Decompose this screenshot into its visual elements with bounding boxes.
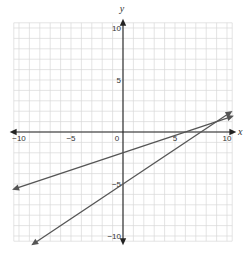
x-tick-label: 0	[115, 134, 120, 143]
y-tick-label: −10	[107, 232, 121, 241]
axes	[10, 19, 237, 246]
x-axis-label: x	[237, 126, 243, 137]
x-tick-label: −10	[12, 134, 26, 143]
coordinate-plane-chart: −10−50510105−5−10 x y	[0, 0, 246, 255]
x-tick-label: −5	[66, 134, 76, 143]
y-tick-label: 5	[117, 76, 122, 85]
line-2	[31, 111, 232, 245]
y-tick-label: 10	[112, 24, 121, 33]
x-tick-label: 10	[223, 134, 232, 143]
y-axis-label: y	[119, 3, 125, 14]
line-arrow-start-icon	[31, 239, 39, 246]
line-segment	[35, 113, 229, 243]
line-arrow-start-icon	[12, 184, 20, 190]
